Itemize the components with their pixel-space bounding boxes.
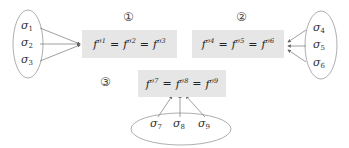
sigma-element-7: σ7 xyxy=(150,117,162,131)
equation-box-1: fσ1 = fσ2 = fσ3 xyxy=(82,30,177,58)
f-term: fσ2 xyxy=(123,37,136,51)
f-term: fσ3 xyxy=(153,37,166,51)
sigma-element-5: σ5 xyxy=(313,38,325,52)
sigma-element-4: σ4 xyxy=(313,21,325,35)
sigma-element-2: σ2 xyxy=(21,36,33,50)
group-label-1: ① xyxy=(123,10,134,24)
sigma-element-6: σ6 xyxy=(313,56,325,70)
f-term: fσ9 xyxy=(206,77,219,91)
sigma-element-1: σ1 xyxy=(21,19,33,33)
sigma-element-8: σ8 xyxy=(173,117,185,131)
f-term: fσ8 xyxy=(176,77,189,91)
sigma-element-9: σ9 xyxy=(198,117,210,131)
sigma-element-3: σ3 xyxy=(21,53,33,67)
equation-box-2: fσ4 = fσ5 = fσ6 xyxy=(192,30,284,58)
f-term: fσ4 xyxy=(202,37,215,51)
f-term: fσ7 xyxy=(146,77,159,91)
group-label-3: ③ xyxy=(100,75,111,89)
equation-box-3: fσ7 = fσ8 = fσ9 xyxy=(138,70,226,97)
f-term: fσ6 xyxy=(262,37,275,51)
group-label-2: ② xyxy=(236,10,247,24)
f-term: fσ5 xyxy=(232,37,245,51)
f-term: fσ1 xyxy=(93,37,106,51)
